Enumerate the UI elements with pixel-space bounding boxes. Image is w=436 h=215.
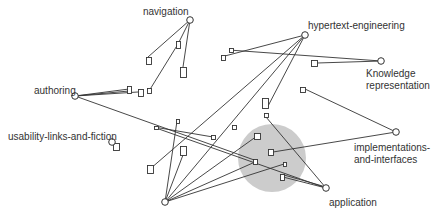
edges-layer xyxy=(75,20,396,202)
document-icon[interactable] xyxy=(155,127,159,130)
document-icon[interactable] xyxy=(212,136,216,140)
document-icon[interactable] xyxy=(281,175,285,181)
edge-line xyxy=(267,35,305,108)
topic-label-authoring: authoring xyxy=(34,85,76,97)
document-icon[interactable] xyxy=(230,49,234,53)
edge-line xyxy=(149,44,178,91)
document-icon[interactable] xyxy=(284,163,287,167)
topic-label-application: application xyxy=(329,197,377,209)
document-icon[interactable] xyxy=(147,58,152,65)
edge-line xyxy=(154,127,213,137)
document-icon[interactable] xyxy=(181,68,187,78)
topic-node-implementations-and-interfaces[interactable] xyxy=(393,129,400,136)
topic-label-navigation: navigation xyxy=(143,6,189,18)
document-icon[interactable] xyxy=(148,89,152,94)
document-icon[interactable] xyxy=(177,42,181,49)
edge-line xyxy=(75,96,257,161)
document-icon[interactable] xyxy=(269,150,274,156)
topic-label-usability-links-and-fiction: usability-links-and-fiction xyxy=(8,131,117,143)
document-icon[interactable] xyxy=(301,88,306,93)
edge-line xyxy=(229,50,381,61)
document-icon[interactable] xyxy=(222,56,226,61)
document-icon[interactable] xyxy=(177,120,180,124)
edge-line xyxy=(317,61,381,63)
document-icon[interactable] xyxy=(265,114,269,118)
document-icon[interactable] xyxy=(255,134,261,140)
document-icon[interactable] xyxy=(263,99,269,109)
document-icon[interactable] xyxy=(128,87,132,94)
topic-node-hypertext-engineering[interactable] xyxy=(302,32,309,39)
topic-network-diagram xyxy=(0,0,436,215)
topic-label-implementations-and-interfaces: implementations- and-interfaces xyxy=(354,142,430,166)
edge-line xyxy=(305,89,396,132)
edge-line xyxy=(148,20,190,57)
topic-node-application[interactable] xyxy=(323,185,330,192)
topic-label-hypertext-engineering: hypertext-engineering xyxy=(308,20,405,32)
document-icon[interactable] xyxy=(233,126,237,130)
document-icon[interactable] xyxy=(139,90,144,97)
document-icon[interactable] xyxy=(148,166,154,174)
document-icon[interactable] xyxy=(181,147,187,156)
topic-node-bottom-hub[interactable] xyxy=(162,199,169,206)
topic-nodes-layer xyxy=(72,17,400,206)
topic-label-knowledge-representation: Knowledge representation xyxy=(366,68,430,92)
document-icon[interactable] xyxy=(312,61,318,67)
document-icon[interactable] xyxy=(254,160,258,165)
topic-node-knowledge-representation[interactable] xyxy=(378,58,385,65)
